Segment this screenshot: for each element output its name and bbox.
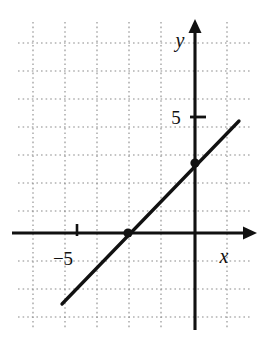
- coordinate-plane: −5 5 x y: [0, 0, 262, 337]
- y-axis-label: y: [174, 29, 185, 52]
- point-x-intercept: [123, 228, 132, 237]
- x-axis-label: x: [219, 245, 229, 267]
- figure-background: [0, 0, 262, 337]
- point-y-intercept: [190, 158, 199, 167]
- x-tick-label-minus-5: −5: [53, 248, 73, 269]
- y-tick-label-5: 5: [171, 107, 181, 128]
- graph-figure: −5 5 x y: [0, 0, 262, 337]
